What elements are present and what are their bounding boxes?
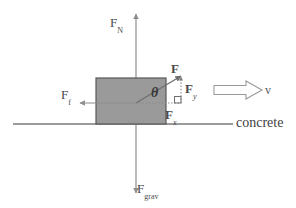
label-gravity-force-sub: grav (144, 192, 158, 201)
label-normal-force: FN (110, 14, 123, 33)
label-velocity: v (265, 84, 271, 96)
label-force-y-component: Fy (185, 80, 197, 99)
label-friction-force: Ff (61, 86, 71, 105)
label-applied-force: F (171, 60, 179, 76)
label-force-x-base: F (165, 107, 173, 122)
label-friction-force-sub: f (68, 98, 71, 107)
label-applied-force-base: F (171, 61, 179, 76)
label-force-x-component: Fx (165, 106, 177, 125)
label-force-y-sub: y (193, 92, 197, 101)
physics-diagram-canvas: FN Fgrav Ff F Fy Fx θ v concrete (0, 0, 296, 208)
velocity-arrow (214, 81, 262, 99)
label-gravity-force: Fgrav (137, 180, 158, 199)
label-angle-theta: θ (151, 86, 158, 100)
label-surface-concrete: concrete (236, 116, 283, 130)
label-force-y-base: F (185, 81, 193, 96)
label-normal-force-sub: N (117, 26, 123, 35)
label-force-x-sub: x (173, 118, 177, 127)
diagram-vector-layer (0, 0, 296, 208)
right-angle-marker (175, 97, 182, 104)
